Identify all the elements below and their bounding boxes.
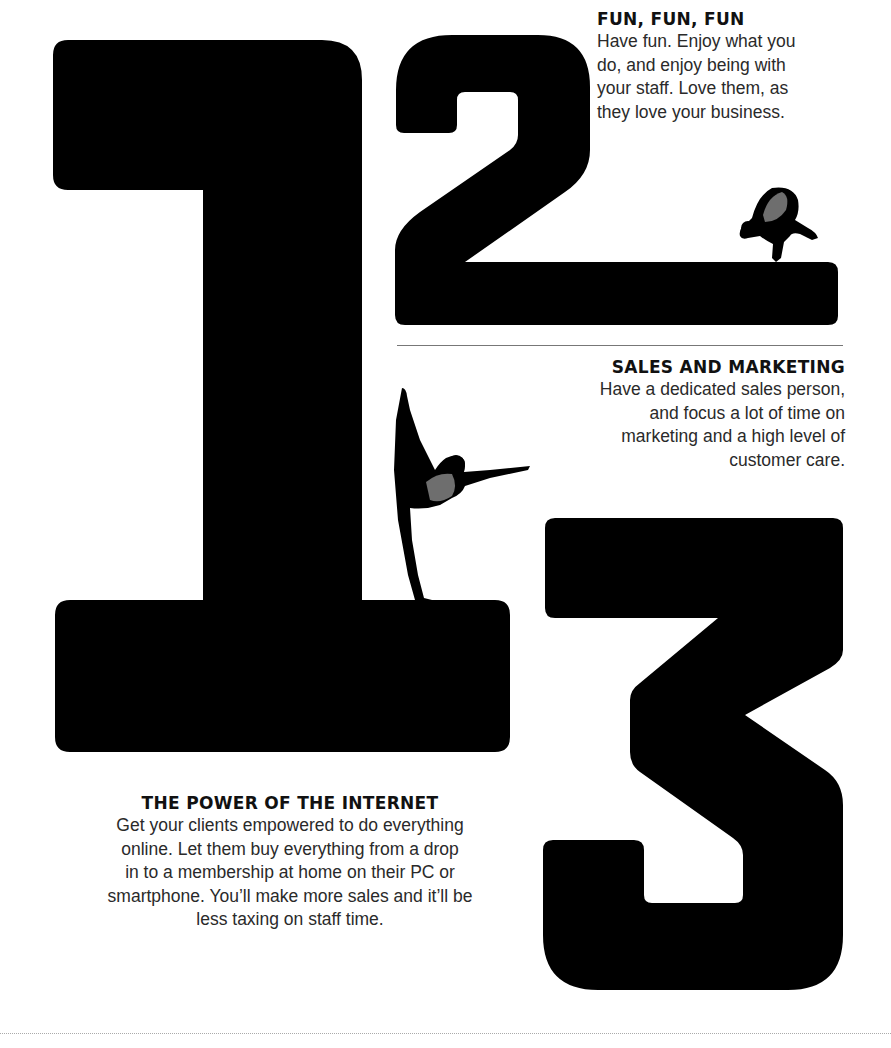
numeral-three [543,518,843,990]
internet-line: in to a membership at home on their PC o… [40,861,540,885]
sales-line: and focus a lot of time on [545,402,845,426]
page-bottom-dotted-rule [0,1033,891,1034]
internet-line: smartphone. You’ll make more sales and i… [40,885,540,909]
internet-line: Get your clients empowered to do everyth… [40,814,540,838]
fun-line: they love your business. [597,101,857,125]
fun-section: FUN, FUN, FUN Have fun. Enjoy what you d… [597,8,857,124]
sales-section: SALES AND MARKETING Have a dedicated sal… [545,356,845,472]
crow-pose-figure-icon [740,188,818,263]
numeral-one [53,40,510,752]
internet-line: less taxing on staff time. [40,908,540,932]
dancer-pose-figure-icon [394,388,530,600]
internet-body: Get your clients empowered to do everyth… [40,814,540,932]
internet-line: online. Let them buy everything from a d… [40,838,540,862]
sales-line: customer care. [545,449,845,473]
sales-heading: SALES AND MARKETING [545,356,845,378]
internet-heading: THE POWER OF THE INTERNET [40,792,540,814]
fun-line: Have fun. Enjoy what you [597,30,857,54]
sales-body: Have a dedicated sales person, and focus… [545,378,845,472]
fun-line: do, and enjoy being with [597,54,857,78]
sales-line: marketing and a high level of [545,425,845,449]
section-divider [397,345,843,346]
sales-line: Have a dedicated sales person, [545,378,845,402]
fun-body: Have fun. Enjoy what you do, and enjoy b… [597,30,857,124]
internet-section: THE POWER OF THE INTERNET Get your clien… [40,792,540,932]
fun-heading: FUN, FUN, FUN [597,8,857,30]
fun-line: your staff. Love them, as [597,77,857,101]
